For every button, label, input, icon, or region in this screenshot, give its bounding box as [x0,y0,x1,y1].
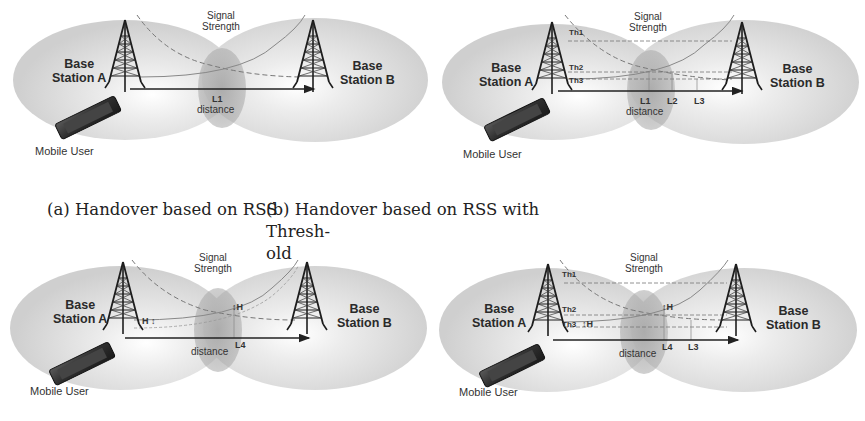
threshold-th3-label: Th3 [569,76,583,85]
signal-strength-label: SignalStrength [629,11,667,33]
signal-strength-label: SignalStrength [625,252,663,274]
overlap-zone [620,290,668,374]
hysteresis-h-label-2: ↕H [662,302,673,312]
distance-marker-l3: L3 [694,96,705,106]
distance-label: distance [191,346,228,357]
distance-marker-l1: L1 [212,94,223,104]
mobile-user-label: Mobile User [35,145,94,157]
base-station-a-label: BaseStation A [53,298,107,326]
overlap-zone [627,50,675,130]
threshold-th3-label: Th3 [562,320,576,329]
mobile-user-label: Mobile User [30,385,89,397]
base-station-a-label: BaseStation A [479,61,533,89]
distance-label: distance [197,104,234,115]
hysteresis-h-label-2: ↕H [232,302,243,312]
distance-label: distance [619,348,656,359]
overlap-zone [198,48,246,128]
threshold-th1-label: Th1 [569,28,583,37]
distance-marker-l3: L3 [688,342,699,352]
signal-strength-label: SignalStrength [202,10,240,32]
caption-b: (b) Handover based on RSS with Thresh- o… [266,199,586,265]
overlap-zone [194,288,242,372]
hysteresis-h-label-1: ↕H [582,319,593,329]
distance-marker-l4: L4 [662,342,673,352]
distance-marker-l1: L1 [640,96,651,106]
base-station-a-label: BaseStation A [52,57,106,85]
panel-d: BaseStation A BaseStation B SignalStreng… [432,258,864,421]
mobile-user-label: Mobile User [459,386,518,398]
threshold-th2-label: Th2 [562,305,576,314]
threshold-th1-label: Th1 [562,270,576,279]
caption-a: (a) Handover based on RSS [47,199,278,221]
base-station-b-label: BaseStation B [770,62,825,90]
distance-label: distance [626,106,663,117]
panel-c: BaseStation A BaseStation B SignalStreng… [0,258,432,421]
hysteresis-h-label-1: H ↕ [142,316,156,326]
signal-strength-label: SignalStrength [194,252,232,274]
panel-b: BaseStation A BaseStation B SignalStreng… [432,0,864,170]
base-station-a-label: BaseStation A [472,302,526,330]
distance-marker-l4: L4 [235,340,246,350]
base-station-b-label: BaseStation B [340,59,395,87]
threshold-th2-label: Th2 [569,63,583,72]
distance-marker-l2: L2 [667,96,678,106]
base-station-b-label: BaseStation B [337,302,392,330]
mobile-user-label: Mobile User [463,148,522,160]
base-station-b-label: BaseStation B [766,304,821,332]
panel-a: BaseStation A BaseStation B SignalStreng… [0,0,432,170]
